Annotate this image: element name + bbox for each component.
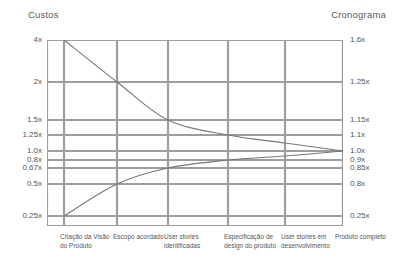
right-tick-6: 0.85x — [350, 164, 370, 172]
left-axis-title: Custos — [28, 9, 59, 20]
left-tick-0: 4x — [34, 36, 42, 44]
right-tick-3: 1.1x — [350, 131, 365, 139]
vertical-gridlines — [64, 40, 343, 226]
right-tick-8: 0.25x — [350, 212, 370, 220]
cone-of-uncertainty-chart: Custos Cronograma 4x2x1.5x1.25x1.0x0.8x0… — [0, 0, 396, 274]
left-tick-3: 1.25x — [22, 131, 42, 139]
right-tick-0: 1.6x — [350, 36, 365, 44]
x-axis-category-labels: Criação da Visão do ProdutoEscopo acorda… — [47, 232, 347, 272]
left-tick-7: 0.5x — [27, 180, 42, 188]
x-label-4: User stories em desenvolvimento — [281, 232, 335, 251]
x-label-1: Escopo acordado — [113, 232, 167, 241]
plot-svg — [47, 40, 343, 226]
left-axis-tick-labels: 4x2x1.5x1.25x1.0x0.8x0.67x0.5x0.25x — [0, 40, 45, 226]
x-label-3: Especificação de design do produto — [224, 232, 278, 251]
right-tick-1: 1.25x — [350, 78, 370, 86]
plot-area — [47, 40, 343, 226]
right-tick-2: 1.15x — [350, 116, 370, 124]
left-tick-1: 2x — [34, 78, 42, 86]
right-axis-tick-labels: 1.6x1.25x1.15x1.1x1.0x0.9x0.85x0.8x0.25x — [347, 40, 395, 226]
data-curves — [64, 40, 343, 216]
left-tick-4: 1.0x — [27, 147, 42, 155]
horizontal-gridlines — [47, 40, 343, 216]
left-tick-6: 0.67x — [22, 164, 42, 172]
left-tick-2: 1.5x — [27, 116, 42, 124]
right-tick-4: 1.0x — [350, 147, 365, 155]
x-label-0: Criação da Visão do Produto — [60, 232, 114, 251]
right-axis-title: Cronograma — [331, 9, 386, 20]
left-tick-8: 0.25x — [22, 212, 42, 220]
x-label-5: Produto completo — [335, 232, 389, 241]
x-label-2: User stories identificadas — [164, 232, 218, 251]
right-tick-7: 0.8x — [350, 180, 365, 188]
